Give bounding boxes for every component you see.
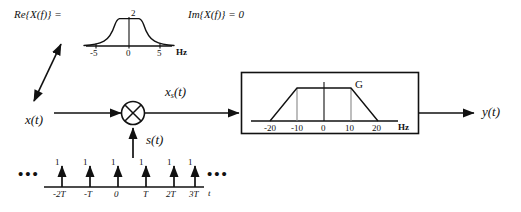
impulse-tick-label-negT: -T bbox=[84, 189, 92, 199]
diagram-vector-layer bbox=[0, 0, 521, 212]
impulse-amplitude-label-pos3T: 1 bbox=[188, 157, 193, 167]
input-spectrum-plot bbox=[84, 17, 174, 49]
sampled-signal-arg: (t) bbox=[174, 84, 186, 99]
spectrum-tick-label-neg5: -5 bbox=[90, 48, 98, 58]
spectrum-peak-label: 2 bbox=[131, 8, 136, 18]
filter-tick-label-pos10: 10 bbox=[345, 123, 354, 133]
impulse-tick-label-pos3T: 3T bbox=[189, 189, 199, 199]
filter-tick-label-neg20: -20 bbox=[264, 123, 276, 133]
impulse-tick-label-neg2T: -2T bbox=[53, 189, 66, 199]
impulse-amplitude-label-negT: 1 bbox=[83, 157, 88, 167]
sampling-signal-label: s(t) bbox=[146, 132, 163, 148]
output-signal-label: y(t) bbox=[482, 104, 500, 120]
filter-tick-label-zero: 0 bbox=[321, 123, 326, 133]
impulse-amplitude-label-neg2T: 1 bbox=[55, 157, 60, 167]
input-signal-arg: (t) bbox=[31, 112, 43, 127]
impulse-right-ellipsis: ••• bbox=[207, 167, 229, 182]
filter-axis-unit-label: Hz bbox=[398, 122, 409, 132]
sampled-signal-label: xs(t) bbox=[165, 84, 186, 100]
impulse-tick-label-zero: 0 bbox=[114, 189, 119, 199]
spectrum-axis-unit-label: Hz bbox=[176, 47, 187, 57]
output-signal-arg: (t) bbox=[488, 104, 500, 119]
real-part-label: Re{X(f)} = bbox=[14, 8, 62, 20]
impulse-left-ellipsis: ••• bbox=[18, 167, 40, 182]
filter-tick-label-pos20: 20 bbox=[372, 123, 381, 133]
transform-pair-arrow bbox=[34, 44, 61, 101]
impulse-amplitude-label-zero: 1 bbox=[111, 157, 116, 167]
imag-part-label: Im{X(f)} = 0 bbox=[188, 8, 244, 20]
input-signal-label: x(t) bbox=[25, 112, 43, 128]
spectrum-tick-label-zero: 0 bbox=[126, 48, 131, 58]
impulse-tick-label-pos2T: 2T bbox=[166, 189, 176, 199]
spectrum-tick-label-pos5: 5 bbox=[157, 48, 162, 58]
impulse-time-axis-label: t bbox=[208, 188, 211, 198]
sampling-signal-arg: (t) bbox=[151, 132, 163, 147]
impulse-amplitude-label-pos2T: 1 bbox=[167, 157, 172, 167]
impulse-tick-label-posT: T bbox=[143, 189, 148, 199]
filter-tick-label-neg10: -10 bbox=[291, 123, 303, 133]
figure-canvas: Re{X(f)} = Im{X(f)} = 0 2 -5 0 5 Hz x(t)… bbox=[0, 0, 521, 212]
filter-gain-label: G bbox=[355, 78, 363, 90]
impulse-train-plot bbox=[44, 166, 204, 187]
impulse-amplitude-label-posT: 1 bbox=[139, 157, 144, 167]
